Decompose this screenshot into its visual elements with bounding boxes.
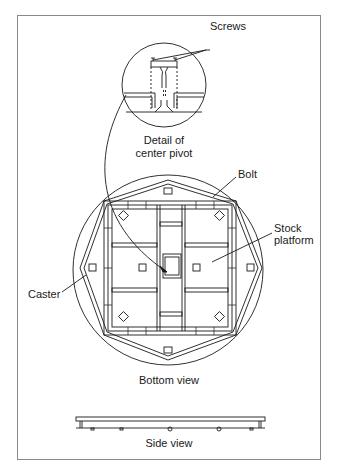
label-caster: Caster (28, 288, 60, 300)
label-detail-line2: center pivot (124, 147, 204, 159)
label-side-view: Side view (119, 437, 219, 449)
stock-leader (212, 233, 272, 262)
pivot-detail (122, 43, 210, 127)
label-screws: Screws (210, 20, 246, 32)
label-stock-line1: Stock (274, 222, 302, 234)
side-view (76, 417, 265, 431)
label-bottom-view: Bottom view (119, 374, 219, 386)
bottom-view (62, 175, 272, 365)
label-bolt: Bolt (238, 168, 257, 180)
label-stock-line2: platform (274, 234, 314, 246)
label-detail-line1: Detail of (124, 134, 204, 146)
caster-leader (62, 275, 86, 292)
